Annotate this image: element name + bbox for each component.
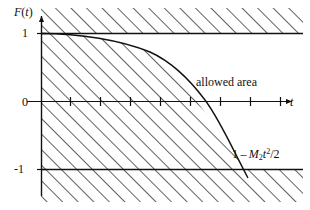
forbidden-region-above-one (41, 8, 303, 34)
y-tick-label-zero: 0 (22, 96, 28, 108)
figure-container: F(t) 1 0 -1 t allowed area 1 – M2t2/2 (0, 0, 310, 210)
curve-formula-label: 1 – M2t2/2 (232, 148, 280, 162)
y-axis-label-text: F(t) (14, 5, 33, 19)
formula-M: M (249, 147, 259, 161)
plot-svg (0, 0, 310, 210)
y-tick-label-one: 1 (22, 27, 28, 39)
allowed-area-label: allowed area (196, 76, 257, 88)
y-axis-label: F(t) (14, 6, 33, 18)
y-tick-label-minus-one: -1 (14, 163, 24, 175)
x-axis-label: t (290, 96, 293, 108)
forbidden-region-below-minus-one (41, 169, 303, 202)
formula-divisor: /2 (270, 147, 279, 161)
